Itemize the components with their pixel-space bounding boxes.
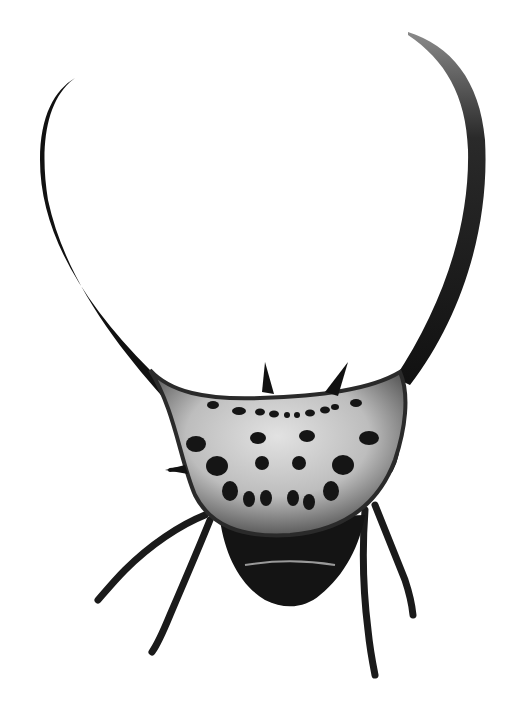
spine-side-left — [165, 465, 188, 474]
spine-top-left — [262, 362, 274, 394]
right-horn — [395, 32, 486, 385]
spider-photo — [0, 0, 525, 717]
spider-illustration — [0, 0, 525, 717]
left-horn — [40, 78, 180, 405]
